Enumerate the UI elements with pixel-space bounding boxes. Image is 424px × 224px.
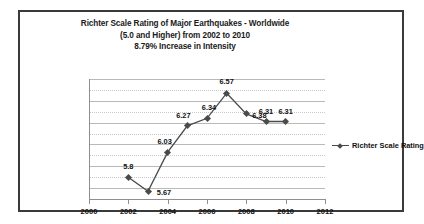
data-point-label: 6.34	[202, 103, 216, 112]
legend-label: Richter Scale Rating	[352, 141, 424, 150]
chart-title-line-2: (5.0 and Higher) from 2002 to 2010	[20, 30, 350, 42]
data-point-label: 5.67	[157, 188, 171, 197]
data-point-label: 6.03	[157, 137, 171, 146]
chart-title-line-3: 8.79% Increase in Intensity	[20, 41, 350, 53]
x-axis-tick-label: 2006	[187, 207, 227, 216]
x-axis-tick	[325, 199, 326, 204]
data-point-label: 5.8	[123, 162, 133, 171]
chart-title-line-1: Richter Scale Rating of Major Earthquake…	[20, 18, 350, 30]
x-axis-tick-label: 2008	[226, 207, 266, 216]
x-axis-tick-label: 2012	[305, 207, 345, 216]
x-axis-tick	[207, 199, 208, 204]
legend-marker-icon	[332, 142, 349, 149]
x-axis-tick	[246, 199, 247, 204]
data-point-label: 6.31	[259, 106, 273, 115]
x-axis-tick	[128, 199, 129, 204]
chart-legend: Richter Scale Rating	[332, 141, 424, 150]
x-axis-tick	[286, 199, 287, 204]
chart-frame: Richter Scale Rating of Major Earthquake…	[18, 10, 404, 212]
data-point-label: 6.31	[278, 106, 292, 115]
x-axis-tick-label: 2010	[266, 207, 306, 216]
x-axis-tick-label: 2002	[108, 207, 148, 216]
x-axis-tick	[168, 199, 169, 204]
series-line	[89, 79, 325, 199]
data-point-label: 6.27	[176, 110, 190, 119]
chart-title: Richter Scale Rating of Major Earthquake…	[20, 18, 350, 53]
x-axis-tick	[89, 199, 90, 204]
data-point-label: 6.57	[219, 77, 233, 86]
x-axis-tick-label: 2000	[69, 207, 109, 216]
x-axis-tick-label: 2004	[148, 207, 188, 216]
plot-area: 6.76.66.56.46.36.26.165.95.85.75.6 20002…	[89, 79, 325, 199]
